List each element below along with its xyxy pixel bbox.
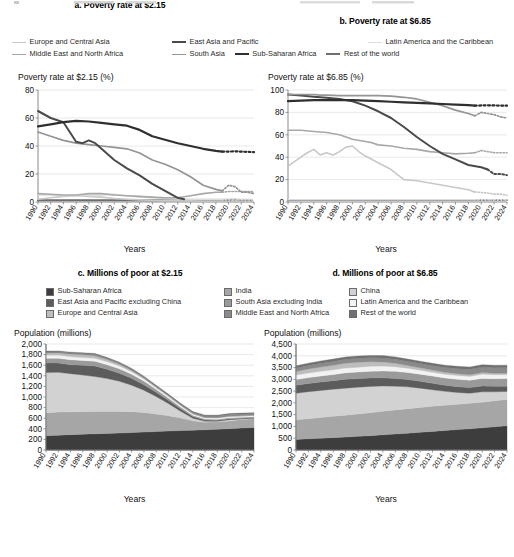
area-legend-row-1: Sub-Saharan Africa India China <box>46 286 512 297</box>
area-legend-row-3: Europe and Central Asia Middle East and … <box>46 308 512 319</box>
svg-text:2018: 2018 <box>201 203 217 222</box>
legend-swatch-latin-america-and-the-caribbean <box>349 299 357 307</box>
panel-a-plot: 0204060801990199219941996199820002002200… <box>12 82 257 222</box>
svg-text:2006: 2006 <box>376 203 392 222</box>
panel-c-plot: 02004006008001,0001,2001,4001,6001,8002,… <box>12 338 257 470</box>
legend-item-india[interactable]: India <box>224 286 349 297</box>
svg-text:40: 40 <box>275 153 285 162</box>
svg-text:2022: 2022 <box>227 203 243 222</box>
legend-label-south-asia: South Asia <box>190 49 225 60</box>
svg-text:1,600: 1,600 <box>22 361 43 370</box>
legend-label-europe-and-central-asia-area: Europe and Central Asia <box>58 308 138 319</box>
panel-c: Population (millions) 02004006008001,000… <box>12 328 257 553</box>
top-cutoff-strip <box>0 0 514 7</box>
legend-item-east-asia-and-pacific-excluding-china[interactable]: East Asia and Pacific excluding China <box>46 297 224 308</box>
legend-label-middle-east-and-north-africa-area: Middle East and North Africa <box>236 308 330 319</box>
legend-label-sub-saharan-africa-area: Sub-Saharan Africa <box>58 286 122 297</box>
panel-d-plot: 05001,0001,5002,0002,5003,0003,5004,0004… <box>262 338 510 470</box>
legend-line-east-asia-and-pacific <box>172 41 186 43</box>
legend-item-rest-of-the-world[interactable]: Rest of the world <box>326 49 399 60</box>
legend-swatch-china <box>349 288 357 296</box>
panel-c-title: c. Millions of poor at $2.15 <box>10 268 250 278</box>
svg-text:1996: 1996 <box>61 203 77 222</box>
svg-text:2012: 2012 <box>163 203 179 222</box>
svg-text:2024: 2024 <box>492 203 508 222</box>
panel-b-plot: 0204060801001990199219941996199820002002… <box>262 82 510 222</box>
legend-item-europe-and-central-asia-area[interactable]: Europe and Central Asia <box>46 308 224 319</box>
legend-item-middle-east-and-north-africa[interactable]: Middle East and North Africa <box>12 49 172 60</box>
panel-c-ylabel: Population (millions) <box>14 328 257 338</box>
svg-text:1,000: 1,000 <box>272 422 293 431</box>
legend-item-sub-saharan-africa[interactable]: Sub-Saharan Africa <box>235 49 317 60</box>
panel-a: Poverty rate at $2.15 (%) 02040608019901… <box>12 72 257 252</box>
svg-text:4,000: 4,000 <box>272 352 293 361</box>
svg-text:2020: 2020 <box>467 203 483 222</box>
svg-text:1992: 1992 <box>286 203 302 222</box>
svg-text:60: 60 <box>25 114 35 123</box>
svg-text:4,500: 4,500 <box>272 340 293 349</box>
svg-text:1,200: 1,200 <box>22 382 43 391</box>
panel-b-ylabel: Poverty rate at $6.85 (%) <box>268 72 510 82</box>
panel-b-title: b. Poverty rate at $6.85 <box>265 16 505 26</box>
legend-label-india: India <box>236 286 252 297</box>
svg-text:2006: 2006 <box>125 203 141 222</box>
legend-item-china[interactable]: China <box>349 286 380 297</box>
svg-text:1990: 1990 <box>23 203 39 222</box>
svg-text:2014: 2014 <box>176 203 192 222</box>
legend-item-south-asia[interactable]: South Asia <box>172 49 225 60</box>
legend-item-middle-east-and-north-africa-area[interactable]: Middle East and North Africa <box>224 308 349 319</box>
svg-text:1994: 1994 <box>49 203 65 222</box>
legend-label-sub-saharan-africa: Sub-Saharan Africa <box>252 49 316 60</box>
panel-d-xlabel: Years <box>262 494 510 504</box>
panel-c-xlabel: Years <box>12 494 257 504</box>
svg-text:1992: 1992 <box>36 203 52 222</box>
svg-text:1,400: 1,400 <box>22 372 43 381</box>
legend-label-south-asia-excluding-india: South Asia excluding India <box>236 297 323 308</box>
svg-text:2020: 2020 <box>214 203 230 222</box>
legend-line-south-asia <box>172 54 186 55</box>
svg-text:800: 800 <box>28 403 42 412</box>
svg-text:2016: 2016 <box>189 203 205 222</box>
line-legend: Europe and Central Asia East Asia and Pa… <box>12 36 508 60</box>
legend-item-latin-america-and-the-caribbean[interactable]: Latin America and the Caribbean <box>368 37 493 48</box>
legend-label-latin-america-and-the-caribbean: Latin America and the Caribbean <box>386 37 494 48</box>
svg-text:100: 100 <box>270 86 284 95</box>
svg-text:20: 20 <box>25 170 35 179</box>
legend-label-east-asia-and-pacific-excluding-china: East Asia and Pacific excluding China <box>58 297 182 308</box>
panel-d: Population (millions) 05001,0001,5002,00… <box>262 328 510 553</box>
legend-item-east-asia-and-pacific[interactable]: East Asia and Pacific <box>172 37 342 48</box>
legend-item-sub-saharan-africa-area[interactable]: Sub-Saharan Africa <box>46 286 224 297</box>
svg-text:2018: 2018 <box>454 203 470 222</box>
legend-label-east-asia-and-pacific: East Asia and Pacific <box>190 37 259 48</box>
svg-text:2014: 2014 <box>428 203 444 222</box>
svg-text:2002: 2002 <box>100 203 116 222</box>
panel-b-xlabel: Years <box>262 244 510 254</box>
svg-text:2002: 2002 <box>351 203 367 222</box>
legend-label-rest-of-the-world-area: Rest of the world <box>361 308 416 319</box>
legend-item-latin-america-and-the-caribbean-area[interactable]: Latin America and the Caribbean <box>349 297 468 308</box>
legend-label-rest-of-the-world: Rest of the world <box>344 49 399 60</box>
panel-a-xlabel: Years <box>12 244 257 254</box>
legend-item-south-asia-excluding-india[interactable]: South Asia excluding India <box>224 297 349 308</box>
legend-label-europe-and-central-asia: Europe and Central Asia <box>30 37 110 48</box>
legend-swatch-east-asia-and-pacific-excluding-china <box>46 299 54 307</box>
svg-text:3,000: 3,000 <box>272 375 293 384</box>
area-legend-row-2: East Asia and Pacific excluding China So… <box>46 297 512 308</box>
legend-swatch-india <box>224 288 232 296</box>
svg-text:2010: 2010 <box>402 203 418 222</box>
line-legend-row-1: Europe and Central Asia East Asia and Pa… <box>12 36 508 48</box>
svg-text:1,000: 1,000 <box>22 393 43 402</box>
legend-item-rest-of-the-world-area[interactable]: Rest of the world <box>349 308 416 319</box>
svg-text:2024: 2024 <box>492 451 508 470</box>
legend-item-europe-and-central-asia[interactable]: Europe and Central Asia <box>12 37 172 48</box>
svg-text:2008: 2008 <box>389 203 405 222</box>
panel-d-ylabel: Population (millions) <box>264 328 510 338</box>
svg-text:2,000: 2,000 <box>22 340 43 349</box>
legend-swatch-rest-of-the-world <box>349 310 357 318</box>
svg-text:2,000: 2,000 <box>272 399 293 408</box>
svg-text:80: 80 <box>25 86 35 95</box>
legend-swatch-sub-saharan-africa <box>46 288 54 296</box>
legend-swatch-south-asia-excluding-india <box>224 299 232 307</box>
svg-text:2004: 2004 <box>112 203 128 222</box>
svg-text:80: 80 <box>275 108 285 117</box>
